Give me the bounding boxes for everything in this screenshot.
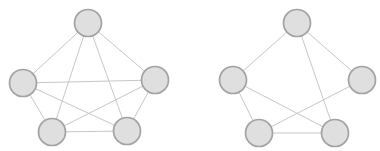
graph-node-top xyxy=(284,10,311,37)
graph-node-left xyxy=(10,70,37,97)
left-graph-complete-k5 xyxy=(10,10,169,146)
graph-node-bottom-left xyxy=(39,119,66,146)
graph-node-bottom-left xyxy=(246,120,273,147)
graph-node-top xyxy=(75,10,102,37)
graph-node-bottom-right xyxy=(322,120,349,147)
graph-node-bottom-right xyxy=(114,118,141,145)
canvas xyxy=(0,0,380,151)
graph-node-right xyxy=(349,67,376,94)
graph-node-right xyxy=(142,67,169,94)
graph-node-left xyxy=(220,67,247,94)
right-graph-partial xyxy=(220,10,376,147)
graphs-svg xyxy=(0,0,380,151)
graph-edge-left-bottom-right xyxy=(23,83,127,131)
graph-edge-left-right xyxy=(23,80,155,83)
